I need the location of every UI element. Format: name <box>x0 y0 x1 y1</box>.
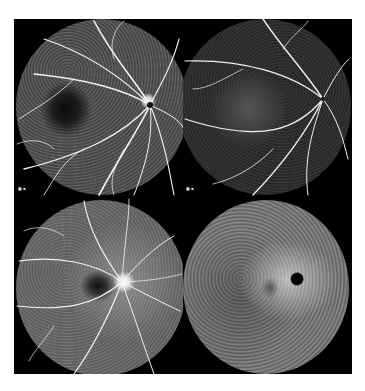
panel-bottom-right <box>183 196 352 374</box>
scale-label: ■ ▪ <box>18 187 26 191</box>
retina-disc <box>183 200 349 374</box>
panel-top-right: ■ ▪ <box>183 19 352 196</box>
vessel-tree <box>183 19 352 196</box>
vessel-tree <box>14 196 183 374</box>
vessel-tree <box>14 19 183 196</box>
panel-bottom-left <box>14 196 183 374</box>
fundus-image-grid: ■ ▪ ■ ▪ <box>14 19 352 374</box>
panel-top-left: ■ ▪ <box>14 19 183 196</box>
scale-label: ■ ▪ <box>186 187 194 191</box>
